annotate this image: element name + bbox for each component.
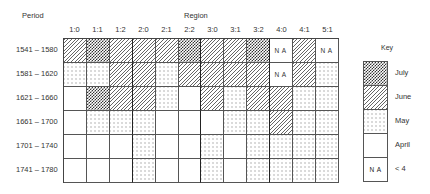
grid-cell [270, 87, 293, 111]
grid-cell [179, 135, 202, 159]
grid-cell [156, 135, 179, 159]
grid-cell [201, 87, 224, 111]
grid-cell [316, 63, 339, 87]
column-header: 5:1 [316, 25, 339, 34]
grid-cell [316, 87, 339, 111]
grid-cell [247, 159, 270, 183]
legend-title: Key [381, 44, 393, 51]
grid-cell [133, 87, 156, 111]
grid-cell [179, 111, 202, 135]
column-header: 3:2 [247, 25, 270, 34]
column-header: 1:2 [109, 25, 132, 34]
grid-cell [87, 159, 110, 183]
column-header: 4:1 [293, 25, 316, 34]
column-header: 1:0 [63, 25, 86, 34]
grid-cell [293, 39, 316, 63]
season-grid: N AN AN A [63, 38, 339, 183]
grid-cell [247, 87, 270, 111]
grid-cell [293, 111, 316, 135]
grid-cell [247, 135, 270, 159]
grid-cell [201, 111, 224, 135]
grid-cell: N A [270, 39, 293, 63]
row-header: 1741 – 1780 [16, 158, 62, 182]
grid-cell [110, 63, 133, 87]
grid-cell [316, 159, 339, 183]
grid-cell [110, 135, 133, 159]
row-header: 1621 – 1660 [16, 86, 62, 110]
grid-cell [133, 135, 156, 159]
legend-label: < 4 [395, 164, 406, 173]
grid-cell [64, 111, 87, 135]
grid-cell [87, 111, 110, 135]
legend-label: May [395, 116, 409, 125]
period-axis-title: Period [22, 11, 44, 20]
grid-cell [156, 39, 179, 63]
column-header: 3:0 [201, 25, 224, 34]
grid-cell [201, 39, 224, 63]
grid-cell [316, 111, 339, 135]
grid-cell [87, 39, 110, 63]
grid-cell [293, 63, 316, 87]
grid-row: N AN A [64, 39, 339, 63]
legend: N A [363, 61, 388, 182]
column-header: 2:2 [178, 25, 201, 34]
grid-cell [201, 63, 224, 87]
legend-swatch [364, 134, 387, 158]
grid-cell [224, 111, 247, 135]
grid-cell [64, 63, 87, 87]
row-header: 1581 – 1620 [16, 62, 62, 86]
grid-cell [270, 159, 293, 183]
grid-cell [110, 159, 133, 183]
grid-row [64, 87, 339, 111]
grid-cell [179, 39, 202, 63]
legend-swatch [364, 86, 387, 110]
column-header: 2:0 [132, 25, 155, 34]
grid-cell [64, 135, 87, 159]
grid-cell [64, 87, 87, 111]
row-header: 1701 – 1740 [16, 134, 62, 158]
grid-cell [87, 135, 110, 159]
grid-cell [87, 63, 110, 87]
grid-cell [133, 159, 156, 183]
grid-cell [247, 39, 270, 63]
grid-cell [316, 135, 339, 159]
grid-cell [133, 63, 156, 87]
grid-cell [179, 63, 202, 87]
grid-cell: N A [316, 39, 339, 63]
grid-cell [156, 159, 179, 183]
region-axis-title: Region [184, 11, 208, 20]
grid-cell [133, 111, 156, 135]
grid-cell [156, 63, 179, 87]
legend-label: June [395, 92, 411, 101]
column-header: 1:1 [86, 25, 109, 34]
grid-cell [110, 111, 133, 135]
grid-cell [64, 159, 87, 183]
grid-row: N A [64, 63, 339, 87]
column-header: 4:0 [270, 25, 293, 34]
grid-cell [133, 39, 156, 63]
grid-cell [201, 135, 224, 159]
grid-cell [270, 135, 293, 159]
grid-cell [293, 87, 316, 111]
grid-cell [247, 111, 270, 135]
grid-cell [110, 39, 133, 63]
grid-cell [247, 63, 270, 87]
grid-cell [179, 87, 202, 111]
grid-cell [156, 87, 179, 111]
grid-cell [270, 111, 293, 135]
row-header: 1661 – 1700 [16, 110, 62, 134]
legend-swatch: N A [364, 158, 387, 181]
grid-cell [87, 87, 110, 111]
grid-cell [201, 159, 224, 183]
grid-cell [156, 111, 179, 135]
column-header: 2:1 [155, 25, 178, 34]
grid-cell [179, 159, 202, 183]
grid-row [64, 111, 339, 135]
legend-label: July [395, 68, 408, 77]
grid-cell [110, 87, 133, 111]
grid-row [64, 159, 339, 183]
grid-cell [64, 39, 87, 63]
grid-cell [224, 135, 247, 159]
grid-row [64, 135, 339, 159]
legend-swatch [364, 110, 387, 134]
